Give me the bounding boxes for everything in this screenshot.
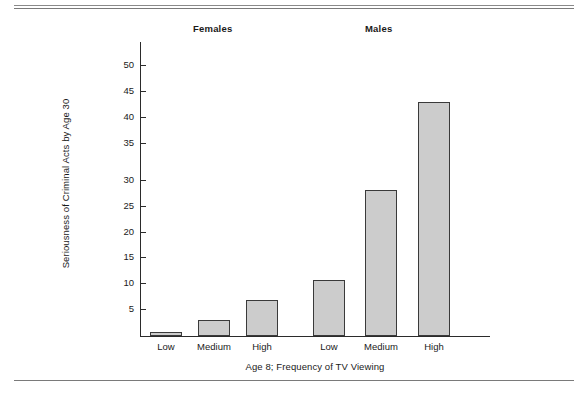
y-tick-label-40: 40 — [104, 112, 134, 122]
x-tick-label-males-high: High — [402, 341, 466, 352]
bottom-rule — [14, 380, 574, 381]
y-tick-15 — [140, 257, 146, 258]
y-axis-line — [140, 42, 141, 337]
y-tick-label-30: 30 — [104, 175, 134, 185]
y-tick-label-25: 25 — [104, 201, 134, 211]
x-axis-line — [140, 336, 490, 337]
y-tick-5 — [140, 309, 146, 310]
y-tick-40 — [140, 117, 146, 118]
bar-chart-plot: Seriousness of Criminal Acts by Age 30 5… — [0, 0, 588, 393]
y-tick-30 — [140, 180, 146, 181]
x-tick-label-females-high: High — [230, 341, 294, 352]
y-tick-50 — [140, 65, 146, 66]
y-tick-25 — [140, 206, 146, 207]
bar-males-high[interactable] — [418, 102, 450, 336]
y-tick-10 — [140, 283, 146, 284]
y-tick-35 — [140, 143, 146, 144]
y-tick-label-20: 20 — [104, 227, 134, 237]
y-tick-45 — [140, 91, 146, 92]
bar-females-medium[interactable] — [198, 320, 230, 336]
y-tick-label-50: 50 — [104, 60, 134, 70]
y-axis-title: Seriousness of Criminal Acts by Age 30 — [60, 69, 71, 299]
bar-males-low[interactable] — [313, 280, 345, 336]
y-tick-20 — [140, 232, 146, 233]
x-axis-title: Age 8; Frequency of TV Viewing — [140, 361, 490, 372]
y-tick-label-35: 35 — [104, 138, 134, 148]
y-tick-label-15: 15 — [104, 252, 134, 262]
y-tick-label-5: 5 — [104, 304, 134, 314]
bar-males-medium[interactable] — [365, 190, 397, 336]
bar-females-high[interactable] — [246, 300, 278, 336]
bar-females-low[interactable] — [150, 332, 182, 336]
y-tick-label-10: 10 — [104, 278, 134, 288]
y-tick-label-45: 45 — [104, 86, 134, 96]
